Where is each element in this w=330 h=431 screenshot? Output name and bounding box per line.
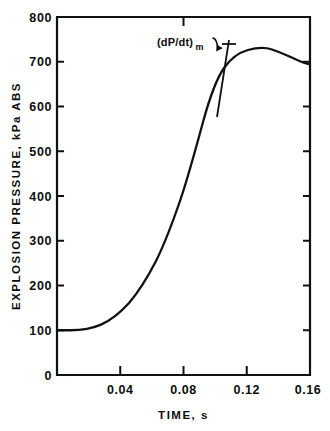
chart-svg: 0 100 200 300 400 500 600 700 800 0.04 0… (0, 0, 330, 431)
y-tick-label-100: 100 (29, 324, 52, 338)
x-axis-ticks (120, 366, 247, 375)
y-tick-label-600: 600 (29, 100, 52, 114)
x-axis-title: TIME, s (158, 409, 209, 421)
y-tick-label-0: 0 (44, 369, 52, 383)
y-tick-label-300: 300 (29, 234, 52, 248)
annotation-text: (dP/dt) (157, 36, 193, 48)
annotation-arrow-head-icon (216, 45, 222, 52)
explosion-pressure-chart: 0 100 200 300 400 500 600 700 800 0.04 0… (0, 0, 330, 431)
y-axis-title: EXPLOSION PRESSURE, kPa ABS (10, 82, 22, 310)
y-tick-label-700: 700 (29, 55, 52, 69)
y-tick-label-400: 400 (29, 190, 52, 204)
y-tick-label-200: 200 (29, 279, 52, 293)
plot-border (57, 17, 310, 375)
x-tick-label-0-12: 0.12 (233, 383, 260, 397)
y-tick-label-800: 800 (29, 11, 52, 25)
y-tick-label-500: 500 (29, 145, 52, 159)
pressure-curve (57, 48, 310, 330)
plot-frame (57, 17, 310, 375)
x-tick-labels: 0.04 0.08 0.12 0.16 (107, 383, 321, 397)
x-tick-label-0-08: 0.08 (170, 383, 197, 397)
annotation-max-rate-label: (dP/dt) m (157, 36, 204, 52)
x-tick-label-0-04: 0.04 (107, 383, 134, 397)
x-tick-label-0-16: 0.16 (295, 383, 322, 397)
y-tick-labels: 0 100 200 300 400 500 600 700 800 (29, 11, 52, 383)
annotation-subscript: m (196, 42, 204, 52)
